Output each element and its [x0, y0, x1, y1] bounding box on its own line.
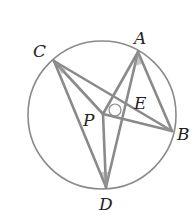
geometry-diagram: A B C D P E — [0, 0, 196, 216]
label-D: D — [98, 194, 113, 214]
label-A: A — [132, 28, 146, 48]
label-C: C — [33, 41, 46, 61]
angle-mark-P — [109, 104, 121, 116]
segment-CD — [54, 61, 106, 187]
label-E: E — [133, 93, 147, 113]
segment-PB — [103, 114, 172, 131]
label-B: B — [176, 124, 190, 144]
label-P: P — [82, 110, 95, 130]
segment-AP — [103, 52, 138, 114]
